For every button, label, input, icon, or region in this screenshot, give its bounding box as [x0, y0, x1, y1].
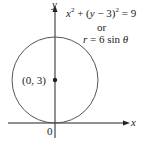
eq-rhs: = 9 [119, 7, 136, 19]
center-point [53, 78, 57, 82]
center-label: (0, 3) [22, 75, 46, 86]
eq-theta: θ [123, 33, 128, 45]
cartesian-equation: x2 + (y − 3)2 = 9 [66, 7, 136, 19]
x-axis-arrow-icon [123, 121, 130, 126]
eq-minus: − 3) [95, 7, 116, 19]
y-axis-label: y [52, 0, 57, 10]
eq-mid: + ( [74, 7, 89, 19]
origin-label: 0 [47, 126, 53, 137]
x-axis-label: x [131, 117, 136, 128]
polar-equation: r = 6 sin θ [83, 34, 128, 45]
eq-polar-mid: = 6 sin [87, 33, 123, 45]
connector-or: or [97, 22, 106, 33]
